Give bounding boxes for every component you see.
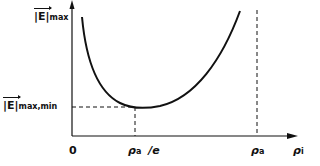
rho-a-label: ρa [251,145,264,156]
plot-svg [0,0,320,166]
rho-a-label-main: ρ [251,144,259,157]
origin-label: 0 [69,145,77,156]
min-level-label-main: |E| [3,100,19,111]
y-axis-arrow-icon [70,0,75,9]
x-axis-label-main: ρ [293,144,301,157]
rho-e-label-suffix: /e [148,144,159,157]
y-axis-label-sub: max [50,13,69,22]
rho-e-label-main: ρ [128,144,136,157]
x-axis-label-sub: i [301,147,304,156]
y-axis-label: |E|max [34,11,68,22]
rho-a-label-sub: a [259,147,264,156]
rho-e-label-sub: a [136,147,141,156]
x-axis-label: ρi [293,145,304,156]
min-level-label: |E|max,min [3,100,57,111]
y-axis-label-main: |E| [34,11,50,22]
min-level-label-sub: max,min [19,102,58,111]
field-curve [82,11,240,108]
diagram-canvas: |E|max |E|max,min 0 ρa /e ρa ρi [0,0,320,166]
rho-e-label: ρa /e [128,145,160,156]
x-axis-arrow-icon [287,133,298,139]
